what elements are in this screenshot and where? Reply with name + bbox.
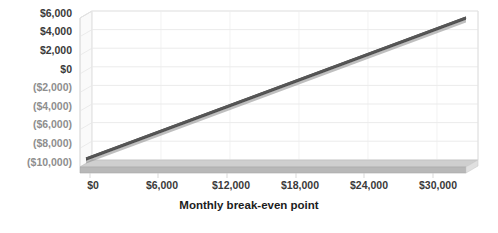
y-tick-label: $0 <box>60 63 72 75</box>
floor-top-surface <box>80 160 478 167</box>
x-tick-label: $24,000 <box>350 179 388 191</box>
y-tick-label: $2,000 <box>40 44 72 56</box>
x-tick-label: $12,000 <box>212 179 250 191</box>
y-tick-label: $6,000 <box>40 7 72 19</box>
x-axis-ticks <box>90 173 433 178</box>
break-even-chart: $6,000 $4,000 $2,000 $0 ($2,000) ($4,000… <box>0 0 498 233</box>
y-tick-label: ($8,000) <box>33 137 72 149</box>
x-axis-tick-labels: $0 $6,000 $12,000 $18,000 $24,000 $30,00… <box>87 179 457 191</box>
x-tick-label: $6,000 <box>146 179 178 191</box>
floor-front-face <box>80 167 466 173</box>
y-axis-tick-labels: $6,000 $4,000 $2,000 $0 ($2,000) ($4,000… <box>27 7 72 168</box>
x-tick-label: $0 <box>87 179 99 191</box>
y-tick-label: ($4,000) <box>33 100 72 112</box>
x-tick-label: $30,000 <box>419 179 457 191</box>
y-tick-label: ($2,000) <box>33 81 72 93</box>
chart-canvas: $6,000 $4,000 $2,000 $0 ($2,000) ($4,000… <box>0 0 498 233</box>
y-tick-label: $4,000 <box>40 25 72 37</box>
x-axis-title: Monthly break-even point <box>179 199 318 211</box>
y-tick-label: ($6,000) <box>33 118 72 130</box>
x-tick-label: $18,000 <box>281 179 319 191</box>
y-tick-label: ($10,000) <box>27 156 72 168</box>
